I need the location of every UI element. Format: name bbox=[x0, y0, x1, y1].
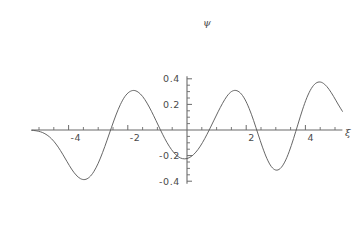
x-tick-label: 4 bbox=[307, 132, 314, 143]
x-tick-label: -2 bbox=[130, 132, 141, 143]
x-tick-label: 2 bbox=[248, 132, 255, 143]
wavefunction-plot: -4-2240.40.2-0.2-0.4 ψ ξ bbox=[0, 0, 359, 244]
y-tick-label: 0.2 bbox=[163, 99, 180, 110]
x-axis-label: ξ bbox=[345, 127, 351, 138]
x-tick-label: -4 bbox=[71, 132, 82, 143]
chart-figure: -4-2240.40.2-0.2-0.4 ψ ξ bbox=[0, 0, 359, 244]
y-axis-label: ψ bbox=[203, 17, 211, 28]
y-tick-label: -0.4 bbox=[159, 176, 180, 187]
plot-background bbox=[0, 0, 359, 244]
y-tick-label: 0.4 bbox=[163, 73, 180, 84]
